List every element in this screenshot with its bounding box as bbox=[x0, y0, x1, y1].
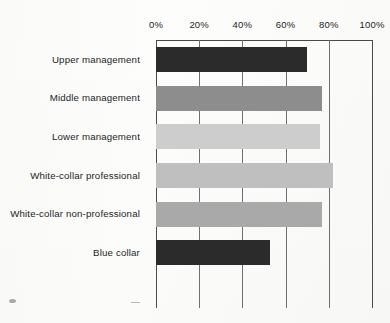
category-label: White-collar professional bbox=[0, 156, 148, 195]
x-axis-tick-label: 0% bbox=[149, 19, 163, 30]
bar-series bbox=[156, 40, 372, 272]
category-label: Upper management bbox=[0, 40, 148, 79]
bar bbox=[156, 163, 333, 188]
x-axis-tick-label: 60% bbox=[276, 19, 296, 30]
bar-row bbox=[156, 79, 372, 118]
bar bbox=[156, 86, 322, 111]
bar bbox=[156, 240, 270, 265]
bar-chart-figure: 0%20%40%60%80%100% Upper managementMiddl… bbox=[0, 0, 390, 323]
scan-artifact-speck bbox=[9, 299, 16, 303]
x-axis-tick-label: 40% bbox=[233, 19, 253, 30]
bar-row bbox=[156, 156, 372, 195]
gridline bbox=[372, 40, 373, 308]
category-label: Lower management bbox=[0, 117, 148, 156]
bar-row bbox=[156, 40, 372, 79]
x-axis-tick-labels: 0%20%40%60%80%100% bbox=[156, 19, 372, 33]
x-axis-tick-label: 20% bbox=[189, 19, 209, 30]
bar-row bbox=[156, 233, 372, 272]
bar bbox=[156, 124, 320, 149]
plot-area bbox=[156, 40, 372, 272]
x-axis-tick-label: 80% bbox=[319, 19, 339, 30]
category-label: Blue collar bbox=[0, 233, 148, 272]
category-label: White-collar non-professional bbox=[0, 195, 148, 234]
x-axis-tick-label: 100% bbox=[359, 19, 384, 30]
bar-row bbox=[156, 195, 372, 234]
category-label-column: Upper managementMiddle managementLower m… bbox=[0, 40, 148, 272]
bar-row bbox=[156, 117, 372, 156]
bar bbox=[156, 47, 307, 72]
bar bbox=[156, 202, 322, 227]
scan-artifact-mark bbox=[131, 302, 140, 303]
category-label: Middle management bbox=[0, 79, 148, 118]
